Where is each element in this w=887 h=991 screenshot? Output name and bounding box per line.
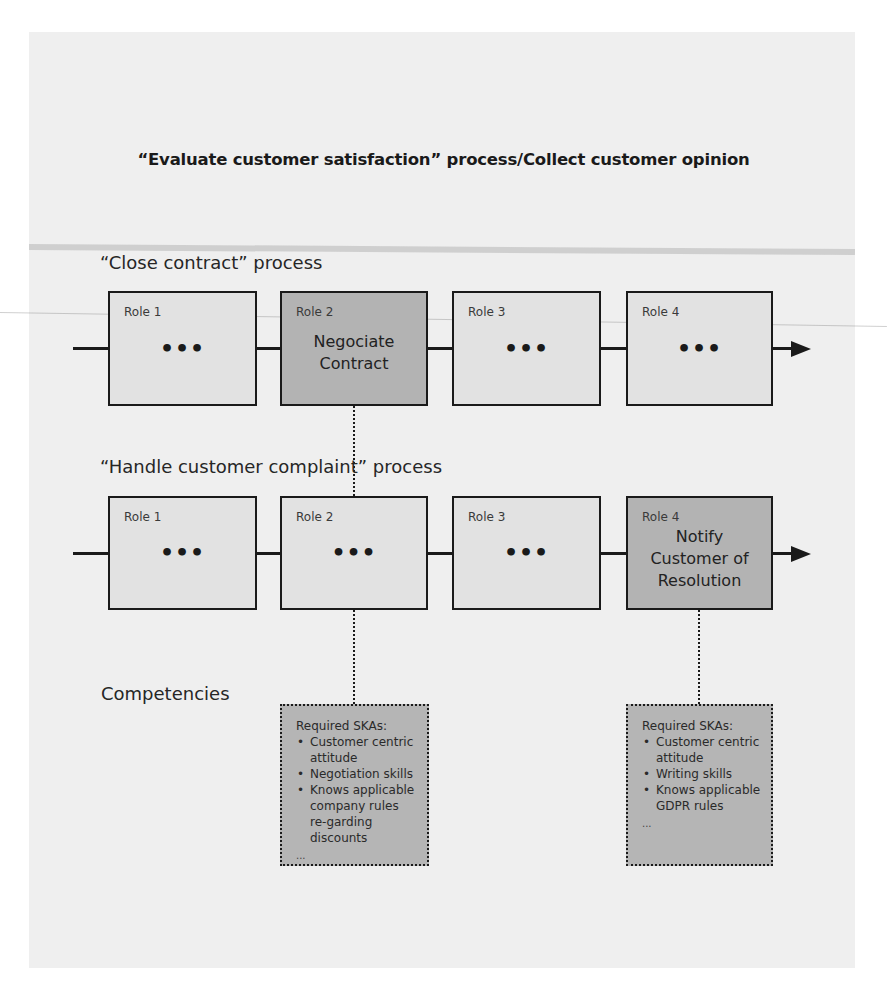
role-label: Role 2 xyxy=(296,305,333,319)
arrow-right-icon xyxy=(791,341,811,357)
ska-item: Customer centric attitude xyxy=(642,734,761,766)
ellipsis-placeholder: ••• xyxy=(628,341,771,357)
task-line: Resolution xyxy=(628,570,771,592)
ska-more: ... xyxy=(642,816,761,832)
process-title-close-contract: “Close contract” process xyxy=(100,252,322,273)
flow-line xyxy=(255,552,281,555)
ska-list: Customer centric attitude Writing skills… xyxy=(642,734,761,814)
arrow-right-icon xyxy=(791,546,811,562)
role-label: Role 1 xyxy=(124,305,161,319)
role-label: Role 4 xyxy=(642,510,679,524)
task-line: Notify xyxy=(628,526,771,548)
dotted-connector xyxy=(353,610,355,704)
role-box-p2-r3: Role 3 ••• xyxy=(452,496,601,610)
flow-line xyxy=(427,347,453,350)
ska-item: Writing skills xyxy=(642,766,761,782)
ellipsis-placeholder: ••• xyxy=(454,341,599,357)
process-title-handle-complaint: “Handle customer complaint” process xyxy=(100,456,442,477)
flow-line xyxy=(73,347,109,350)
ska-box-negotiate: Required SKAs: Customer centric attitude… xyxy=(280,704,429,866)
ellipsis-placeholder: ••• xyxy=(454,545,599,561)
role-label: Role 3 xyxy=(468,510,505,524)
competencies-title: Competencies xyxy=(101,683,230,704)
role-box-p1-r1: Role 1 ••• xyxy=(108,291,257,406)
ska-item: Customer centric attitude xyxy=(296,734,417,766)
role-label: Role 4 xyxy=(642,305,679,319)
role-box-p2-r4: Role 4 Notify Customer of Resolution xyxy=(626,496,773,610)
ska-heading: Required SKAs: xyxy=(642,718,761,734)
diagram-title: “Evaluate customer satisfaction” process… xyxy=(0,150,887,169)
ska-box-notify: Required SKAs: Customer centric attitude… xyxy=(626,704,773,866)
task-line: Negociate xyxy=(282,331,426,353)
dotted-connector xyxy=(698,610,700,704)
role-box-p1-r2: Role 2 Negociate Contract xyxy=(280,291,428,406)
ska-heading: Required SKAs: xyxy=(296,718,417,734)
role-label: Role 1 xyxy=(124,510,161,524)
flow-line xyxy=(771,552,793,555)
role-box-p1-r3: Role 3 ••• xyxy=(452,291,601,406)
flow-line xyxy=(771,347,793,350)
role-label: Role 2 xyxy=(296,510,333,524)
task-text: Notify Customer of Resolution xyxy=(628,526,771,592)
role-box-p2-r2: Role 2 ••• xyxy=(280,496,428,610)
flow-line xyxy=(599,552,627,555)
task-line: Contract xyxy=(282,353,426,375)
ska-more: ... xyxy=(296,848,417,864)
role-box-p1-r4: Role 4 ••• xyxy=(626,291,773,406)
ska-item: Negotiation skills xyxy=(296,766,417,782)
ellipsis-placeholder: ••• xyxy=(282,545,426,561)
flow-line xyxy=(73,552,109,555)
flow-line xyxy=(427,552,453,555)
dotted-connector xyxy=(353,406,355,496)
flow-line xyxy=(255,347,281,350)
ska-item: Knows applicable company rules re-gardin… xyxy=(296,782,417,846)
ellipsis-placeholder: ••• xyxy=(110,545,255,561)
ellipsis-placeholder: ••• xyxy=(110,341,255,357)
flow-line xyxy=(599,347,627,350)
role-box-p2-r1: Role 1 ••• xyxy=(108,496,257,610)
role-label: Role 3 xyxy=(468,305,505,319)
ska-list: Customer centric attitude Negotiation sk… xyxy=(296,734,417,846)
task-line: Customer of xyxy=(628,548,771,570)
task-text: Negociate Contract xyxy=(282,331,426,375)
ska-item: Knows applicable GDPR rules xyxy=(642,782,761,814)
